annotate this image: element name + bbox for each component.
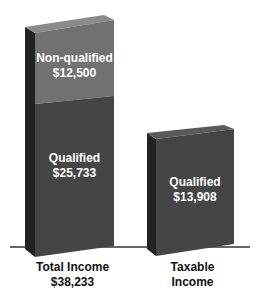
category-label-total-income: Total Income $38,233 xyxy=(25,260,120,290)
category-label-line1: Taxable xyxy=(150,260,235,275)
bar2-qualified-label: Qualified $13,908 xyxy=(156,175,234,205)
category-label-line1: Total Income xyxy=(25,260,120,275)
category-label-line2: $38,233 xyxy=(25,275,120,290)
bar1-nonqualified-label: Non-qualified $12,500 xyxy=(35,51,114,81)
category-label-taxable-income: Taxable Income xyxy=(150,260,235,290)
bar2-qualified-value: $13,908 xyxy=(156,190,234,205)
bar1-qualified-label: Qualified $25,733 xyxy=(35,151,114,181)
bar2-qualified-title: Qualified xyxy=(156,175,234,190)
bar1-nonqualified-title: Non-qualified xyxy=(35,51,114,66)
bar1-nonqualified-value: $12,500 xyxy=(35,66,114,81)
bar2-side xyxy=(147,133,156,256)
bar-chart xyxy=(0,0,259,297)
category-label-line2: Income xyxy=(150,275,235,290)
bar1-side xyxy=(25,27,35,257)
bar1-qualified-title: Qualified xyxy=(35,151,114,166)
bar1-qualified-value: $25,733 xyxy=(35,166,114,181)
